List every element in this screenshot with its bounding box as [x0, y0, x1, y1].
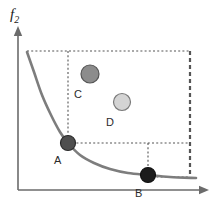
data-point-d[interactable] — [114, 94, 131, 111]
figure-canvas: f2 ABCD — [0, 0, 218, 213]
plot-area — [0, 0, 218, 213]
data-point-a[interactable] — [61, 136, 76, 151]
curve-path — [27, 52, 196, 178]
y-axis-arrowhead — [14, 26, 22, 36]
point-label-a: A — [54, 155, 61, 166]
point-label-b: B — [135, 188, 142, 199]
data-point-c[interactable] — [81, 65, 99, 83]
point-label-c: C — [74, 89, 82, 100]
x-axis-arrowhead — [199, 186, 209, 194]
point-label-d: D — [106, 117, 114, 128]
pareto-curve — [27, 52, 196, 178]
data-point-b[interactable] — [141, 168, 156, 183]
